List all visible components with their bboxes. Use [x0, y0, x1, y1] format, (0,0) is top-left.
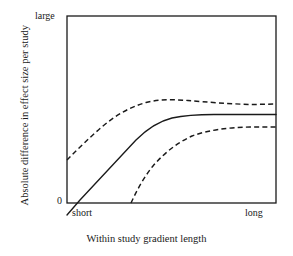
plot-frame	[67, 16, 276, 203]
chart-figure: Absolute difference in effect size per s…	[0, 0, 293, 256]
x-axis-tick-short: short	[72, 208, 92, 218]
x-axis-title: Within study gradient length	[0, 234, 293, 245]
y-axis-tick-large: large	[35, 11, 55, 21]
y-axis-title: Absolute difference in effect size per s…	[20, 15, 31, 215]
x-axis-tick-long: long	[245, 208, 263, 218]
y-axis-tick-zero: 0	[57, 196, 62, 206]
